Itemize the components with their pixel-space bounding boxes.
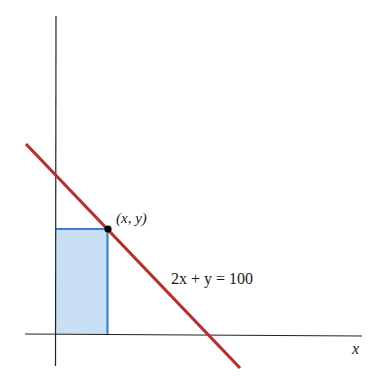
y-axis [56, 16, 57, 366]
point-xy [104, 225, 111, 232]
x-axis-label: x [351, 340, 359, 357]
shaded-rectangle [56, 229, 108, 335]
x-axis [25, 334, 362, 336]
point-label: (x, y) [116, 210, 147, 227]
equation-label: 2x + y = 100 [171, 270, 253, 288]
diagram-canvas: (x, y) 2x + y = 100 x [0, 0, 383, 384]
